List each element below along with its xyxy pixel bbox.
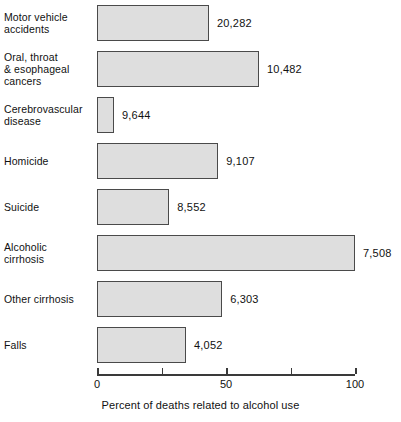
bar-value-label: 8,552 xyxy=(177,201,206,213)
category-label: Suicide xyxy=(4,201,90,213)
bar-value-label: 4,052 xyxy=(194,339,223,351)
bar[interactable] xyxy=(97,189,169,225)
bar-value-label: 20,282 xyxy=(217,17,252,29)
x-axis-title: Percent of deaths related to alcohol use xyxy=(0,399,401,411)
x-axis-tick xyxy=(355,368,357,374)
category-label: Motor vehicleaccidents xyxy=(4,11,90,35)
x-axis-tick xyxy=(162,368,164,374)
bar[interactable] xyxy=(97,281,222,317)
category-label-line: Falls xyxy=(4,339,90,351)
chart-row: Cerebrovasculardisease9,644 xyxy=(0,92,401,138)
category-label-line: Cerebrovascular xyxy=(4,103,90,115)
chart-plot-area: Motor vehicleaccidents20,282Oral, throat… xyxy=(0,0,401,368)
category-label-line: Suicide xyxy=(4,201,90,213)
bar-chart: Motor vehicleaccidents20,282Oral, throat… xyxy=(0,0,401,422)
chart-row: Other cirrhosis6,303 xyxy=(0,276,401,322)
bar-track: 10,482 xyxy=(97,51,355,87)
chart-row: Motor vehicleaccidents20,282 xyxy=(0,0,401,46)
category-label: Cerebrovasculardisease xyxy=(4,103,90,127)
category-label-line: Homicide xyxy=(4,155,90,167)
bar-value-label: 6,303 xyxy=(230,293,259,305)
bar[interactable] xyxy=(97,51,259,87)
category-label-line: accidents xyxy=(4,23,90,35)
chart-row: Alcoholiccirrhosis7,508 xyxy=(0,230,401,276)
bar-track: 20,282 xyxy=(97,5,355,41)
bar-value-label: 9,107 xyxy=(226,155,255,167)
bar[interactable] xyxy=(97,143,218,179)
bar[interactable] xyxy=(97,97,114,133)
chart-row: Suicide8,552 xyxy=(0,184,401,230)
x-axis-tick xyxy=(226,368,228,374)
category-label: Oral, throat& esophagealcancers xyxy=(4,51,90,88)
category-label-line: disease xyxy=(4,115,90,127)
x-axis-tick-label: 50 xyxy=(220,378,232,390)
bar-track: 9,644 xyxy=(97,97,355,133)
bar[interactable] xyxy=(97,235,355,271)
category-label: Falls xyxy=(4,339,90,351)
x-axis-tick-label: 0 xyxy=(94,378,100,390)
x-axis-tick xyxy=(291,368,293,374)
chart-row: Falls4,052 xyxy=(0,322,401,368)
chart-row: Oral, throat& esophagealcancers10,482 xyxy=(0,46,401,92)
bar[interactable] xyxy=(97,5,209,41)
category-label-line: Oral, throat xyxy=(4,51,90,63)
x-axis-line xyxy=(97,374,355,376)
x-axis-tick xyxy=(97,368,99,374)
bar-value-label: 9,644 xyxy=(122,109,151,121)
x-axis-tick-label: 100 xyxy=(346,378,364,390)
bar-track: 6,303 xyxy=(97,281,355,317)
category-label: Homicide xyxy=(4,155,90,167)
bar-track: 7,508 xyxy=(97,235,355,271)
category-label: Other cirrhosis xyxy=(4,293,90,305)
bar-value-label: 10,482 xyxy=(267,63,302,75)
category-label-line: & esophageal xyxy=(4,63,90,75)
category-label-line: Other cirrhosis xyxy=(4,293,90,305)
bar[interactable] xyxy=(97,327,186,363)
category-label-line: cirrhosis xyxy=(4,253,90,265)
chart-row: Homicide9,107 xyxy=(0,138,401,184)
bar-track: 4,052 xyxy=(97,327,355,363)
category-label: Alcoholiccirrhosis xyxy=(4,241,90,265)
bar-track: 8,552 xyxy=(97,189,355,225)
bar-value-label: 7,508 xyxy=(363,247,392,259)
category-label-line: Motor vehicle xyxy=(4,11,90,23)
category-label-line: cancers xyxy=(4,75,90,87)
category-label-line: Alcoholic xyxy=(4,241,90,253)
bar-track: 9,107 xyxy=(97,143,355,179)
